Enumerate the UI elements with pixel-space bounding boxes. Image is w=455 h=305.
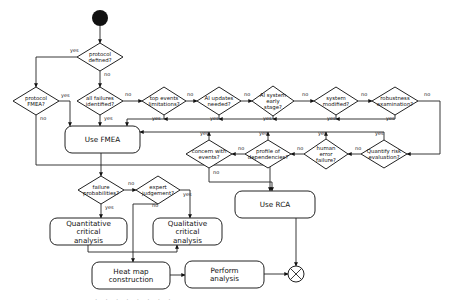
edge-label: no	[104, 71, 110, 77]
decision-protocol-fmea: protocolFMEA?	[13, 87, 59, 115]
flowchart-diagram: yesnoyesnonoyesnoyesnoyesnoyesnoyesnoyes…	[0, 0, 455, 305]
edge-label: no	[424, 91, 430, 97]
node-label: examination?	[377, 101, 414, 107]
edge-label: no	[302, 91, 308, 97]
process-use-rca: Use RCA	[235, 191, 315, 218]
edge-label: no	[125, 91, 131, 97]
node-label: Use FMEA	[85, 135, 121, 144]
edge-expert-judgement-to-qualitative-analysis: yes	[180, 190, 192, 218]
decision-concern-events: concern withevents?	[186, 140, 232, 168]
node-label: events?	[198, 154, 219, 160]
figure-caption: · · · · · · · ·	[95, 296, 173, 304]
edge-label: no	[297, 145, 303, 151]
node-label: analysis	[210, 274, 239, 283]
edge-label: no	[187, 91, 193, 97]
node-label: limitations?	[148, 101, 179, 107]
edge-protocol-defined-to-protocol-fmea: yes	[36, 47, 79, 87]
edge-ai-system-early-to-system-modified: no	[294, 91, 314, 101]
process-use-fmea: Use FMEA	[65, 126, 140, 153]
edge-label: no	[40, 115, 46, 121]
edge-protocol-fmea-to-use-fmea: yes	[59, 92, 70, 126]
edge-label: yes	[152, 115, 161, 122]
decision-quantify-risk: Quantify riskevaluation?	[361, 140, 407, 168]
decision-robustness-exam: robustnessexamination?	[372, 87, 418, 115]
start-node	[92, 10, 108, 26]
edge-protocol-defined-to-all-failures: no	[100, 71, 110, 87]
edge-system-modified-to-use-fmea: yes	[273, 115, 336, 122]
edge-all-failures-to-top-events: no	[123, 91, 142, 101]
node-label: error	[319, 151, 333, 157]
decision-system-modified: systemmodified?	[314, 87, 358, 115]
edge-label: yes	[259, 130, 268, 137]
edge-all-failures-to-use-fmea: yes	[100, 115, 113, 126]
edge-profile-dependencies-to-concern-events: no	[232, 145, 245, 154]
edge-quantify-risk-to-human-error: no	[348, 145, 361, 154]
node-label: identified?	[86, 101, 114, 107]
node-label: analysis	[173, 236, 202, 245]
node-label: needed?	[207, 101, 230, 107]
node-label: modified?	[323, 101, 350, 107]
edge-top-events-to-ai-updates: no	[186, 91, 197, 101]
edge-label: no	[355, 145, 361, 151]
decision-failure-probabilities: failureprobabilities?	[78, 176, 124, 204]
process-qualitative-analysis: Qualitativecriticalanalysis	[153, 218, 222, 245]
edge-label: yes	[105, 204, 114, 211]
node-label: FMEA?	[27, 101, 45, 107]
edge-label: yes	[61, 92, 70, 99]
process-quantitative-analysis: Quantitativecriticalanalysis	[50, 218, 127, 245]
node-label: Use RCA	[260, 200, 290, 209]
edge-ai-updates-to-use-fmea: yes	[164, 115, 219, 122]
edge-ai-system-early-to-use-fmea: yes	[219, 115, 273, 122]
node-label: failure	[92, 184, 110, 190]
edge-human-error-to-use-fmea: yes	[318, 130, 327, 139]
decision-profile-dependencies: profile ofdependencies?	[245, 140, 291, 168]
edge-concern-events-to-use-rca: no	[209, 168, 272, 191]
edge-label: yes	[327, 115, 336, 122]
edge-label: yes	[70, 47, 79, 54]
edge-failure-probabilities-to-quantitative-analysis: yes	[101, 204, 114, 218]
node-label: defined?	[88, 57, 111, 63]
node-label: robustness	[380, 95, 410, 101]
edge-label: yes	[210, 115, 219, 122]
edge-ai-updates-to-ai-system-early: no	[241, 91, 252, 101]
node-label: evaluation?	[368, 154, 399, 160]
edge-label: yes	[318, 130, 327, 137]
edge-system-modified-to-robustness-exam: no	[358, 91, 372, 101]
node-label: dependencies?	[248, 154, 289, 161]
edge-label: no	[244, 91, 250, 97]
node-label: judgement?	[141, 190, 174, 197]
node-label: construction	[109, 275, 154, 284]
decision-top-events: top eventslimitations?	[142, 87, 186, 115]
edge-concern-events-to-use-fmea: yes	[200, 130, 209, 140]
edge-robustness-exam-to-use-fmea: yes	[336, 115, 395, 122]
decision-protocol-defined: protocoldefined?	[77, 43, 123, 71]
edge-label: yes	[263, 115, 272, 122]
edge-label: yes	[183, 191, 192, 198]
edge-label: yes	[386, 115, 395, 122]
decision-human-error: humanerrorfailure?	[304, 139, 348, 169]
edge-profile-dependencies-to-use-fmea: yes	[259, 130, 268, 140]
node-label: all failures	[86, 95, 114, 101]
edge-label: no	[128, 180, 134, 186]
edge-top-events-to-use-fmea: yes	[127, 115, 164, 126]
edge-failure-probabilities-to-expert-judgement: no	[124, 180, 136, 190]
edge-label: no	[213, 169, 219, 175]
edge-label: yes	[104, 115, 113, 122]
node-label: human	[317, 145, 336, 151]
node-label: analysis	[74, 236, 103, 245]
process-heat-map: Heat mapconstruction	[92, 262, 170, 289]
edge-label: yes	[375, 130, 384, 137]
decision-ai-system-early: AI systemearlystage?	[252, 86, 294, 116]
node-label: stage?	[264, 104, 282, 111]
node-label: probabilities?	[83, 190, 119, 197]
node-label: concern with	[192, 148, 227, 154]
decision-expert-judgement: expertjudgement?	[136, 176, 180, 204]
decision-all-failures: all failuresidentified?	[77, 87, 123, 115]
edge-quantitative-analysis-to-heat-map	[88, 245, 177, 252]
edge-label: no	[361, 91, 367, 97]
end-node	[288, 266, 304, 282]
edge-label: no	[238, 145, 244, 151]
decision-ai-updates: AI updatesneeded?	[197, 87, 241, 115]
edge-human-error-to-profile-dependencies: no	[291, 145, 304, 154]
process-perform-analysis: Performanalysis	[185, 261, 264, 288]
